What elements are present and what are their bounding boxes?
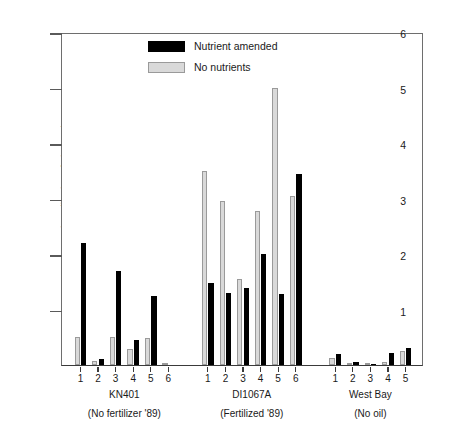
bar-no-nutrients [400, 351, 405, 365]
x-tick-mark [335, 367, 336, 372]
bar-no-nutrients [365, 363, 370, 365]
bar-no-nutrients [237, 279, 242, 365]
x-tick-mark [370, 367, 371, 372]
black-swatch-icon [148, 41, 185, 52]
bar-nutrient-amended [151, 296, 156, 365]
y-tick-label: 2 [366, 250, 406, 262]
x-tick-mark [405, 367, 406, 372]
group-subtitle-west-bay: (No oil) [354, 408, 386, 419]
bar-nutrient-amended [116, 271, 121, 365]
x-tick-label: 6 [157, 373, 179, 384]
bar-no-nutrients [127, 349, 132, 365]
x-tick-mark [260, 367, 261, 372]
bar-nutrient-amended [134, 340, 139, 365]
bar-nutrient-amended [296, 174, 301, 365]
y-tick-label: 3 [366, 195, 406, 207]
bar-no-nutrients [290, 196, 295, 365]
x-tick-mark [387, 367, 388, 372]
y-tick-label: 5 [366, 84, 406, 96]
grey-swatch-icon [148, 62, 185, 73]
bar-no-nutrients [162, 363, 167, 365]
group-subtitle-di1067a: (Fertilized '89) [220, 408, 283, 419]
group-name-west-bay: West Bay [349, 389, 392, 400]
bar-no-nutrients [347, 363, 352, 365]
x-tick-label: 5 [395, 373, 417, 384]
bar-nutrient-amended [244, 288, 249, 365]
x-tick-mark [133, 367, 134, 372]
x-tick-label: 6 [285, 373, 307, 384]
bar-nutrient-amended [389, 353, 394, 365]
bar-no-nutrients [382, 362, 387, 365]
bar-no-nutrients [255, 211, 260, 365]
bar-nutrient-amended [208, 283, 213, 365]
x-tick-mark [225, 367, 226, 372]
y-tick-mark [50, 200, 62, 201]
bar-no-nutrients [202, 171, 207, 365]
legend-item: Nutrient amended [148, 40, 277, 52]
bar-no-nutrients [145, 338, 150, 365]
x-tick-mark [242, 367, 243, 372]
bar-nutrient-amended [99, 359, 104, 365]
bar-no-nutrients [75, 337, 80, 365]
x-tick-mark [150, 367, 151, 372]
group-name-kn401: KN401 [109, 389, 140, 400]
x-tick-mark [295, 367, 296, 372]
x-tick-mark [97, 367, 98, 372]
bar-nutrient-amended [279, 294, 284, 365]
bar-chart-figure: Percentage mineralization of phenanthren… [0, 0, 463, 428]
legend-label: No nutrients [194, 61, 251, 73]
y-tick-mark [50, 144, 62, 145]
bar-nutrient-amended [406, 348, 411, 365]
y-tick-mark [50, 33, 62, 34]
y-tick-mark [50, 311, 62, 312]
x-tick-mark [207, 367, 208, 372]
bar-no-nutrients [92, 361, 97, 365]
bar-nutrient-amended [353, 362, 358, 365]
bar-no-nutrients [329, 358, 334, 365]
bar-nutrient-amended [81, 243, 86, 365]
plot-area: 123456 12345612345612345 KN401(No fertil… [61, 33, 423, 366]
y-tick-label: 4 [366, 139, 406, 151]
bar-no-nutrients [110, 337, 115, 365]
x-tick-mark [115, 367, 116, 372]
bar-nutrient-amended [261, 254, 266, 365]
bar-nutrient-amended [226, 293, 231, 365]
y-tick-label: 1 [366, 306, 406, 318]
bar-no-nutrients [272, 88, 277, 366]
legend-item: No nutrients [148, 61, 277, 73]
legend-label: Nutrient amended [194, 40, 277, 52]
x-tick-mark [352, 367, 353, 372]
y-tick-mark [50, 89, 62, 90]
group-name-di1067a: DI1067A [232, 389, 271, 400]
chart-legend: Nutrient amendedNo nutrients [148, 40, 277, 82]
bar-no-nutrients [220, 201, 225, 365]
y-tick-mark [50, 255, 62, 256]
x-tick-mark [168, 367, 169, 372]
group-subtitle-kn401: (No fertilizer '89) [88, 408, 161, 419]
x-tick-mark [80, 367, 81, 372]
y-tick-label: 6 [366, 28, 406, 40]
x-tick-mark [278, 367, 279, 372]
bar-nutrient-amended [336, 354, 341, 365]
bar-nutrient-amended [371, 364, 376, 365]
